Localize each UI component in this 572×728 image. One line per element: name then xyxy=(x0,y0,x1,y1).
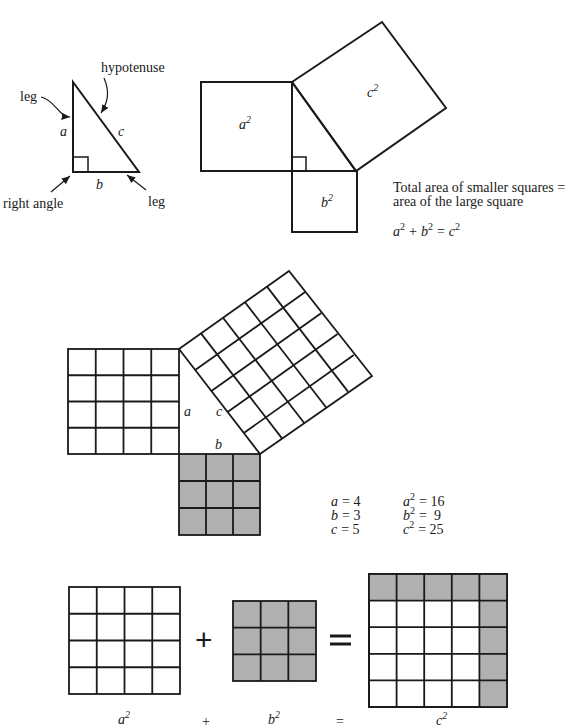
grid-label-b: b xyxy=(215,437,222,452)
value-row-c-sq: c2= 25 xyxy=(403,519,444,537)
bottom-label-plus: + xyxy=(202,714,210,728)
equals-sign xyxy=(330,636,351,644)
value-row-c: c= 5 xyxy=(331,522,360,537)
grid-square-c xyxy=(179,271,372,454)
plus-sign: + xyxy=(195,623,213,656)
triangle-arrows xyxy=(41,78,146,192)
square-a xyxy=(201,82,292,171)
label-c-squared: c2 xyxy=(367,82,378,100)
value-row-b: b= 3 xyxy=(331,508,360,523)
label-a-squared: a2 xyxy=(239,114,251,132)
label-leg-top: leg xyxy=(20,89,37,104)
label-c: c xyxy=(118,124,125,139)
bottom-label-c-squared: c2 xyxy=(436,710,447,728)
bottom-grid-b xyxy=(233,601,316,681)
grid-label-a: a xyxy=(184,404,191,419)
label-a: a xyxy=(60,124,67,139)
right-triangle xyxy=(73,82,139,172)
label-b-squared: b2 xyxy=(321,192,333,210)
values-table: a= 4 b= 3 c= 5 a2= 16 b2= 9 c2= 25 xyxy=(331,491,444,537)
grid-square-b xyxy=(179,454,260,535)
bottom-grid-a xyxy=(69,587,180,694)
statement-line-1: Total area of smaller squares = xyxy=(393,180,565,195)
pythagorean-figure: leg hypotenuse a c b right angle leg a2 … xyxy=(0,0,572,728)
grid-square-a xyxy=(68,349,179,454)
grid-label-c: c xyxy=(216,404,223,419)
label-hypotenuse: hypotenuse xyxy=(101,60,165,75)
bottom-grid-c xyxy=(369,574,507,707)
statement-equation: a2+b2=c2 xyxy=(393,221,460,239)
value-row-a: a= 4 xyxy=(331,494,360,509)
statement-line-2: area of the large square xyxy=(393,194,523,209)
bottom-label-equals: = xyxy=(336,714,344,728)
label-b: b xyxy=(96,177,103,192)
bottom-label-a-squared: a2 xyxy=(118,709,130,727)
bottom-label-b-squared: b2 xyxy=(268,709,280,727)
label-right-angle: right angle xyxy=(3,196,63,211)
label-leg-bottom: leg xyxy=(148,194,165,209)
